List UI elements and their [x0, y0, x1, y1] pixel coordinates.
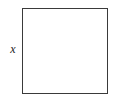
- geometry-figure: x: [0, 0, 115, 100]
- square-interior: [23, 9, 107, 93]
- square-shape: [22, 8, 108, 94]
- side-length-label-x: x: [6, 41, 20, 57]
